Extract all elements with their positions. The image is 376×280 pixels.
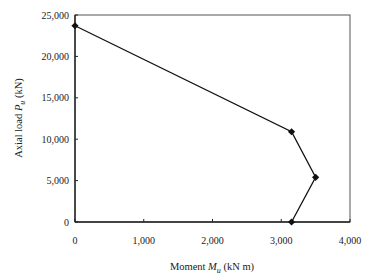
y-tick-label: 10,000 <box>42 134 70 145</box>
x-axis-title: Moment Mu (kN m) <box>170 261 255 275</box>
interaction-chart: 05,00010,00015,00020,00025,000 01,0002,0… <box>0 0 376 280</box>
x-tick-label: 2,000 <box>201 235 224 246</box>
x-axis: 01,0002,0003,0004,000 <box>73 219 362 246</box>
y-tick-label: 5,000 <box>47 175 70 186</box>
y-tick-label: 20,000 <box>42 51 70 62</box>
y-tick-label: 15,000 <box>42 92 70 103</box>
diamond-marker <box>71 22 78 29</box>
diamond-marker <box>288 128 295 135</box>
y-axis-title: Axial load Pu (kN) <box>13 78 27 158</box>
y-tick-label: 0 <box>64 217 69 228</box>
x-tick-label: 4,000 <box>339 235 362 246</box>
y-tick-label: 25,000 <box>42 10 70 21</box>
y-axis: 05,00010,00015,00020,00025,000 <box>42 10 79 228</box>
diamond-marker <box>288 218 295 225</box>
diamond-marker <box>312 174 319 181</box>
data-series <box>71 22 319 225</box>
series-line <box>75 26 316 222</box>
x-tick-label: 0 <box>73 235 78 246</box>
x-tick-label: 3,000 <box>270 235 293 246</box>
x-tick-label: 1,000 <box>133 235 156 246</box>
